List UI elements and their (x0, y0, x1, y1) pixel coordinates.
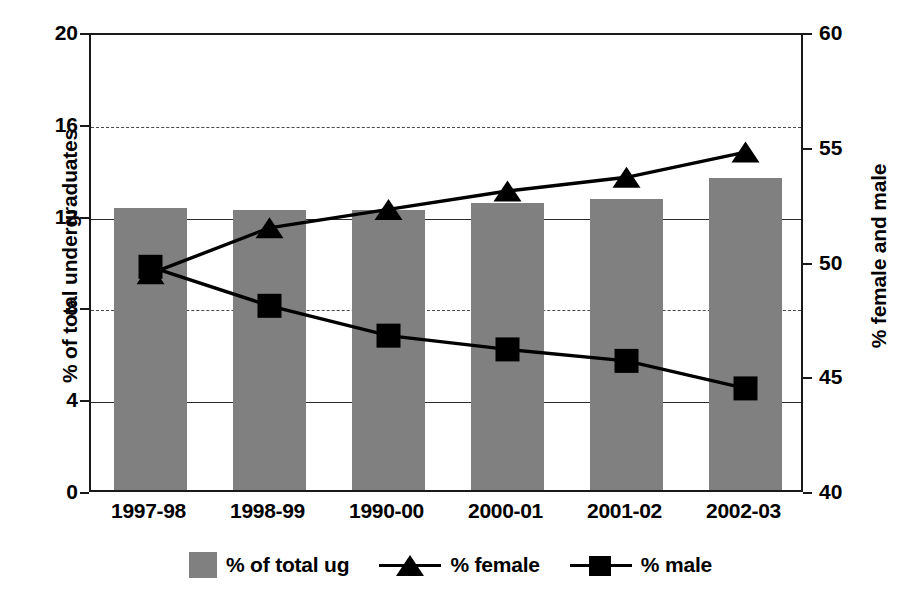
y-axis-right-tick-label: 60 (819, 22, 879, 43)
bar (471, 203, 545, 490)
y-axis-left-tick-label: 16 (18, 114, 78, 135)
y-axis-right-tick-label: 50 (819, 252, 879, 273)
x-axis-category-label: 2002-03 (684, 499, 803, 523)
bar (709, 178, 783, 490)
square-marker-icon (589, 556, 611, 576)
triangle-marker (613, 167, 641, 188)
x-axis-category-label: 1997-98 (89, 499, 208, 523)
y-axis-left-tick-label: 8 (18, 297, 78, 318)
bar (352, 210, 426, 490)
x-axis-category-label: 1998-99 (208, 499, 327, 523)
gridline (91, 127, 801, 128)
y-axis-left-tick-label: 12 (18, 206, 78, 227)
y-axis-right-tick-label: 45 (819, 366, 879, 387)
y-axis-left-tickmark (80, 125, 89, 127)
line-series-male (139, 255, 758, 401)
bar (114, 208, 188, 490)
line-series-female (137, 142, 760, 285)
y-axis-right-tickmark (803, 377, 812, 379)
triangle-marker (732, 142, 760, 163)
legend-label: % of total ug (226, 553, 349, 577)
triangle-marker (494, 181, 522, 202)
gray-square-swatch-icon (189, 552, 217, 578)
y-axis-left-tickmark (80, 308, 89, 310)
y-axis-right-tick-label: 55 (819, 137, 879, 158)
x-axis-category-label: 2001-02 (565, 499, 684, 523)
gridline (91, 402, 801, 403)
legend-item[interactable]: % female (379, 552, 539, 578)
line-series-layer (91, 35, 805, 494)
gridline (91, 310, 801, 311)
y-axis-right-tickmark (803, 263, 812, 265)
legend-item[interactable]: % of total ug (189, 552, 349, 578)
y-axis-right-tickmark (803, 148, 812, 150)
bar (590, 199, 664, 490)
plot-area (89, 33, 803, 492)
y-axis-right-tickmark (803, 33, 812, 35)
legend-label: % female (450, 553, 539, 577)
bar (233, 210, 307, 490)
y-axis-left-tick-label: 4 (18, 389, 78, 410)
chart-legend: % of total ug% female% male (0, 552, 901, 578)
square-marker-swatch-icon (570, 552, 632, 578)
legend-item[interactable]: % male (570, 552, 712, 578)
y-axis-left-tickmark (80, 400, 89, 402)
y-axis-left-tickmark (80, 217, 89, 219)
y-axis-right-tick-label: 40 (819, 481, 879, 502)
triangle-marker-swatch-icon (379, 552, 441, 578)
x-axis-category-label: 1990-00 (327, 499, 446, 523)
gridline (91, 219, 801, 220)
y-axis-left-tick-label: 20 (18, 22, 78, 43)
triangle-marker-icon (396, 555, 424, 576)
y-axis-left-tick-label: 0 (18, 481, 78, 502)
x-axis-category-label: 2000-01 (446, 499, 565, 523)
y-axis-left-tickmark (80, 492, 89, 494)
chart-container: % of total undergraduates % female and m… (0, 0, 901, 605)
legend-label: % male (641, 553, 712, 577)
y-axis-right-tickmark (803, 492, 812, 494)
y-axis-left-tickmark (80, 33, 89, 35)
